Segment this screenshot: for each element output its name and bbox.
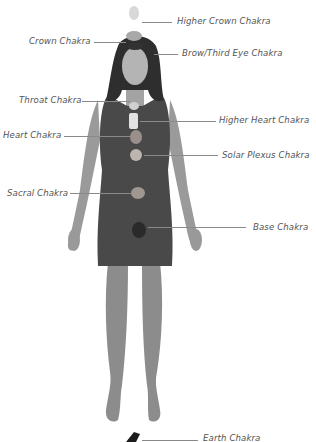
label-base: Base Chakra (253, 222, 308, 232)
label-higher-heart: Higher Heart Chakra (219, 115, 309, 125)
leader-line-solar-plexus (144, 155, 218, 156)
label-heart: Heart Chakra (3, 130, 61, 140)
label-brow: Brow/Third Eye Chakra (182, 48, 283, 58)
leader-line-earth (142, 440, 198, 441)
label-throat: Throat Chakra (19, 95, 82, 105)
label-solar-plexus: Solar Plexus Chakra (222, 150, 310, 160)
label-sacral: Sacral Chakra (7, 188, 68, 198)
label-earth: Earth Chakra (203, 433, 260, 442)
label-higher-crown: Higher Crown Chakra (177, 16, 271, 26)
leader-line-heart (64, 136, 130, 137)
chakra-diagram: Higher Crown Chakra Crown Chakra Brow/Th… (0, 0, 316, 442)
leader-line-higher-crown (142, 22, 172, 23)
leader-line-higher-heart (140, 121, 216, 122)
leader-line-crown (94, 42, 126, 43)
leader-line-sacral (70, 193, 132, 194)
person-figure (0, 0, 316, 442)
leader-line-base (148, 227, 246, 228)
label-crown: Crown Chakra (29, 36, 91, 46)
leader-line-throat (82, 101, 130, 102)
leader-line-brow (154, 54, 178, 55)
